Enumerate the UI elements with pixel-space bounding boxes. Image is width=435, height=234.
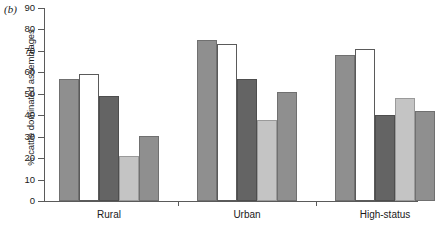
bars-layer [45,8,418,201]
bar [119,156,139,201]
bar [139,136,159,201]
bar [415,111,435,201]
y-axis-tick-label: 10 [5,175,35,185]
bar [99,96,119,201]
y-axis-tick-label: 60 [5,67,35,77]
x-axis-group-label: High-status [360,209,411,220]
y-axis-tick-label: 70 [5,46,35,56]
x-axis-separator-tick [316,202,317,206]
y-axis-tick [38,180,44,181]
y-axis-tick [38,158,44,159]
x-axis-group-label: Rural [97,209,121,220]
y-axis-tick [38,8,44,9]
y-axis-tick [38,137,44,138]
x-axis-separator-tick [178,202,179,206]
bar [277,92,297,201]
y-axis-tick [38,115,44,116]
y-axis-tick-label: 40 [5,110,35,120]
y-axis-tick [38,201,44,202]
y-axis-tick-labels: 0102030405060708090 [0,0,35,234]
y-axis-tick-label: 0 [5,196,35,206]
bar [79,74,99,201]
y-axis-tick [38,94,44,95]
bar [375,115,395,201]
x-axis-line [44,201,418,202]
bar [217,44,237,201]
y-axis-tick [38,72,44,73]
y-axis-tick-label: 30 [5,132,35,142]
bar [237,79,257,201]
bar [355,49,375,201]
bar [335,55,355,201]
y-axis-tick-label: 80 [5,24,35,34]
y-axis-tick-label: 90 [5,3,35,13]
bar [395,98,415,201]
y-axis-tick [38,29,44,30]
y-axis-tick-label: 20 [5,153,35,163]
y-axis-tick [38,51,44,52]
bar [197,40,217,201]
bar [59,79,79,201]
bar [257,120,277,201]
y-axis-tick-label: 50 [5,89,35,99]
x-axis-group-label: Urban [233,209,260,220]
